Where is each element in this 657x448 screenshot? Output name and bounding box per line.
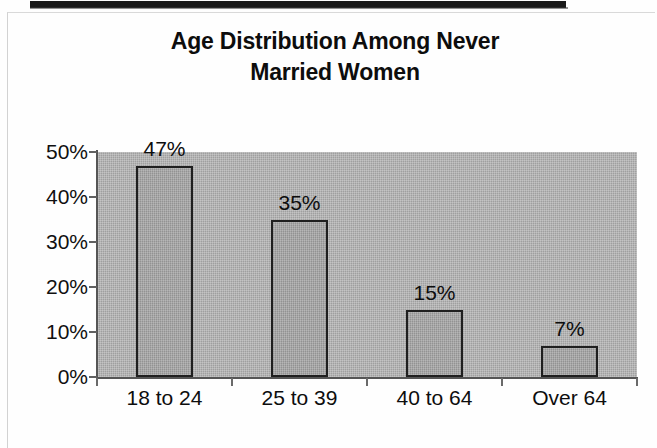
y-axis-tick (89, 286, 97, 288)
chart-canvas: Age Distribution Among Never Married Wom… (0, 0, 657, 448)
bar (136, 166, 193, 378)
chart-title: Age Distribution Among Never Married Wom… (40, 26, 630, 88)
y-axis-tick-label: 20% (8, 275, 88, 299)
chart-title-line-2: Married Women (40, 57, 630, 88)
y-axis-tick-label: 0% (8, 365, 88, 389)
y-axis-tick (89, 151, 97, 153)
y-axis-labels: 0%10%20%30%40%50% (0, 0, 88, 448)
y-axis-tick (89, 331, 97, 333)
bar (541, 346, 598, 378)
y-axis-tick-label: 50% (8, 140, 88, 164)
bar-value-label: 7% (554, 317, 584, 341)
scan-top-rule (30, 1, 566, 8)
x-axis-tick (96, 378, 98, 386)
x-axis-tick (636, 378, 638, 386)
y-axis-line (96, 150, 98, 379)
x-axis-tick (231, 378, 233, 386)
y-axis-tick (89, 196, 97, 198)
x-axis-category-label: 25 to 39 (262, 386, 338, 410)
y-axis-tick-label: 10% (8, 320, 88, 344)
y-axis-tick-label: 30% (8, 230, 88, 254)
bar (271, 220, 328, 378)
bar-value-label: 35% (278, 191, 320, 215)
bar-value-label: 47% (143, 137, 185, 161)
x-axis-tick (501, 378, 503, 386)
x-axis-tick (366, 378, 368, 386)
bar (406, 310, 463, 378)
chart-title-line-1: Age Distribution Among Never (40, 26, 630, 57)
y-axis-tick-label: 40% (8, 185, 88, 209)
x-axis-category-label: Over 64 (532, 386, 607, 410)
bar-value-label: 15% (413, 281, 455, 305)
y-axis-tick (89, 241, 97, 243)
x-axis-category-label: 18 to 24 (127, 386, 203, 410)
x-axis-category-label: 40 to 64 (397, 386, 473, 410)
